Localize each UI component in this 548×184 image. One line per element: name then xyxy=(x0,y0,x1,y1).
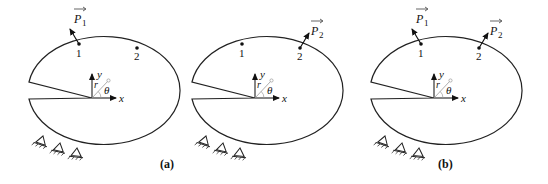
point-2-label: 2 xyxy=(476,50,482,62)
caption-a: (a) xyxy=(160,157,174,171)
load-label-p1: P 1 xyxy=(415,7,429,28)
svg-text:P: P xyxy=(73,12,82,26)
r-label: r xyxy=(257,79,261,90)
caption-b: (b) xyxy=(438,157,453,171)
svg-text:2: 2 xyxy=(498,30,503,40)
load-arrow-p2 xyxy=(479,33,488,48)
svg-text:1: 1 xyxy=(424,18,429,28)
r-label: r xyxy=(94,79,98,90)
panel-a-load-p1: y x r θ 1 2 P 1 xyxy=(29,7,180,161)
point-1-label: 1 xyxy=(239,47,245,59)
load-label-p1: P 1 xyxy=(73,7,87,28)
theta-label: θ xyxy=(446,84,452,96)
svg-text:P: P xyxy=(310,24,319,38)
x-axis-label: x xyxy=(460,92,466,104)
svg-text:P: P xyxy=(489,24,498,38)
panel-a-load-p2: y x r θ 1 2 P 2 xyxy=(192,19,343,161)
cracked-disk-figure: y x r θ 1 2 P 1 y x r θ 1 2 xyxy=(0,0,548,184)
x-axis-label: x xyxy=(118,92,124,104)
x-axis-label: x xyxy=(281,92,287,104)
r-label: r xyxy=(436,79,440,90)
pin-supports xyxy=(374,134,426,161)
pin-supports xyxy=(195,134,247,161)
theta-label: θ xyxy=(267,84,273,96)
svg-text:P: P xyxy=(415,12,424,26)
theta-label: θ xyxy=(104,84,110,96)
point-1-marker xyxy=(240,42,244,46)
load-label-p2: P 2 xyxy=(310,19,324,40)
load-label-p2: P 2 xyxy=(489,19,503,40)
svg-text:1: 1 xyxy=(82,18,87,28)
point-1-label: 1 xyxy=(76,47,82,59)
point-2-label: 2 xyxy=(297,50,303,62)
pin-supports xyxy=(32,134,84,161)
point-1-label: 1 xyxy=(418,47,424,59)
panel-b-loads-p1-p2: y x r θ 1 2 P 1 P 2 xyxy=(371,7,522,161)
point-2-label: 2 xyxy=(134,50,140,62)
svg-text:2: 2 xyxy=(319,30,324,40)
load-arrow-p2 xyxy=(300,33,309,48)
